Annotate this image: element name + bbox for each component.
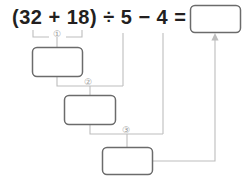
step-1-box[interactable]	[33, 48, 83, 77]
answer-box[interactable]	[191, 6, 241, 33]
bracket-step-1-right	[66, 30, 82, 37]
step-marker-1: ①	[53, 29, 61, 39]
step-2-box[interactable]	[65, 96, 116, 125]
step-marker-3: ③	[122, 125, 130, 135]
step-marker-2: ②	[84, 77, 92, 87]
worksheet-canvas: (32 + 18) ÷ 5 − 4 = ① ② ③	[0, 0, 249, 187]
bracket-step-1-left	[33, 30, 49, 37]
step-3-box[interactable]	[103, 148, 153, 175]
connector-box3-to-answer	[152, 38, 215, 161]
arrowhead-to-answer-icon	[211, 33, 218, 41]
equation-expression: (32 + 18) ÷ 5 − 4 =	[12, 4, 186, 30]
